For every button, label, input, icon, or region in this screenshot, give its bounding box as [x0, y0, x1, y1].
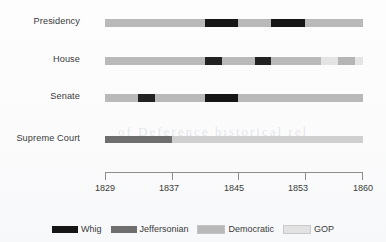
- timeline-segment-democratic: [172, 136, 363, 143]
- timeline-bar-supreme-court: [105, 136, 363, 143]
- timeline-segment-democratic: [222, 57, 255, 65]
- tick-label-1829: 1829: [85, 183, 125, 193]
- timeline-segment-democratic: [105, 94, 138, 102]
- legend-label-democratic: Democratic: [228, 224, 274, 234]
- row-label-senate: Senate: [0, 91, 80, 101]
- tick-label-1837: 1837: [149, 183, 189, 193]
- timeline-segment-democratic: [155, 94, 205, 102]
- legend-item-gop: GOP: [283, 224, 334, 234]
- tick-label-1860: 1860: [343, 183, 383, 193]
- timeline-segment-democratic: [338, 57, 355, 65]
- row-label-house: House: [0, 54, 80, 64]
- axis-tick-1845: [238, 172, 239, 180]
- timeline-segment-whig: [255, 57, 272, 65]
- tick-label-1845: 1845: [214, 183, 254, 193]
- timeline-chart: of Deference hıstorical rel Presidency H…: [0, 0, 386, 242]
- tick-label-1853: 1853: [278, 183, 318, 193]
- legend-swatch-democratic: [197, 225, 225, 234]
- axis-line: [105, 172, 363, 173]
- timeline-segment-whig: [205, 19, 238, 27]
- timeline-segment-democratic: [105, 57, 205, 65]
- timeline-segment-whig: [138, 94, 155, 102]
- timeline-segment-democratic: [238, 19, 271, 27]
- row-label-presidency: Presidency: [0, 16, 80, 26]
- timeline-segment-gop: [321, 57, 338, 65]
- legend-swatch-whig: [52, 226, 78, 233]
- timeline-bar-senate: [105, 94, 363, 102]
- timeline-segment-whig: [205, 94, 238, 102]
- timeline-segment-democratic: [271, 57, 321, 65]
- legend-label-jeffersonian: Jeffersonian: [140, 224, 189, 234]
- legend-item-whig: Whig: [52, 224, 102, 234]
- timeline-segment-democratic: [238, 94, 363, 102]
- legend: Whig Jeffersonian Democratic GOP: [0, 222, 386, 236]
- timeline-segment-democratic: [305, 19, 363, 27]
- timeline-bar-house: [105, 57, 363, 65]
- timeline-segment-whig: [205, 57, 222, 65]
- timeline-segment-democratic: [105, 19, 205, 27]
- axis-tick-1837: [172, 172, 173, 180]
- row-label-supreme-court: Supreme Court: [0, 133, 80, 143]
- axis-tick-1853: [305, 172, 306, 180]
- timeline-segment-jeffersonian: [105, 136, 172, 143]
- legend-item-democratic: Democratic: [197, 224, 274, 234]
- timeline-bar-presidency: [105, 19, 363, 27]
- legend-label-whig: Whig: [81, 224, 102, 234]
- legend-swatch-gop: [283, 225, 311, 234]
- timeline-segment-whig: [271, 19, 304, 27]
- x-axis: [105, 172, 363, 181]
- axis-tick-1829: [105, 172, 106, 180]
- legend-swatch-jeffersonian: [111, 226, 137, 233]
- timeline-segment-gop: [355, 57, 363, 65]
- legend-label-gop: GOP: [314, 224, 334, 234]
- axis-tick-1860: [362, 172, 363, 180]
- legend-item-jeffersonian: Jeffersonian: [111, 224, 189, 234]
